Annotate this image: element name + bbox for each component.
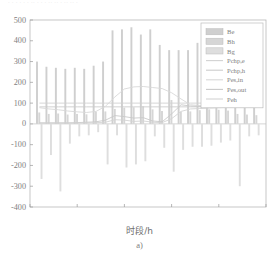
- bar: [197, 43, 199, 124]
- x-axis-title: 时段/h: [0, 224, 279, 237]
- bar: [154, 124, 156, 136]
- bar: [173, 124, 175, 172]
- legend-swatch-Bh: [206, 38, 223, 44]
- x-tick-label: 15: [168, 210, 176, 211]
- bar: [45, 67, 47, 124]
- bar: [208, 109, 210, 124]
- x-tick-label: 25: [262, 210, 270, 211]
- bar: [112, 30, 114, 124]
- chart-canvas: -400-300-200-100010020030040050005101520…: [0, 10, 279, 210]
- bar: [220, 124, 222, 143]
- bar: [229, 124, 231, 141]
- bar: [144, 124, 146, 161]
- bar: [255, 115, 257, 124]
- bar: [239, 124, 241, 186]
- legend-swatch-Be: [206, 29, 223, 35]
- bar: [59, 124, 61, 192]
- bar: [88, 124, 90, 135]
- bar: [149, 29, 151, 124]
- x-tick-label: 0: [28, 210, 32, 211]
- bar: [227, 111, 229, 124]
- figure-caption: a): [0, 240, 279, 250]
- bar: [199, 110, 201, 124]
- bar: [246, 115, 248, 124]
- bar: [102, 62, 104, 124]
- legend-label-Bg: Bg: [227, 48, 235, 55]
- y-tick-label: 500: [14, 16, 26, 25]
- bar: [64, 69, 66, 124]
- bar: [237, 114, 239, 124]
- y-tick-label: 400: [14, 36, 26, 45]
- bar: [201, 124, 203, 147]
- legend: BeBhBgPchp,ePchp,hPes,inPes,outPeh: [201, 23, 263, 108]
- bar: [74, 68, 76, 124]
- x-tick-label: 5: [75, 210, 79, 211]
- bar: [38, 112, 40, 123]
- legend-label-Peh: Peh: [227, 96, 238, 103]
- y-tick-label: 100: [14, 99, 26, 108]
- bar: [130, 27, 132, 124]
- y-tick-label: 0: [22, 119, 26, 128]
- legend-label-Pes,in: Pes,in: [227, 76, 244, 83]
- y-tick-label: -100: [11, 140, 26, 149]
- x-tick-label: 10: [120, 210, 128, 211]
- y-tick-label: 300: [14, 57, 26, 66]
- bar: [116, 124, 118, 135]
- legend-label-Bh: Bh: [227, 38, 235, 45]
- bar: [210, 124, 212, 146]
- legend-label-Pes,out: Pes,out: [227, 86, 246, 93]
- y-tick-label: -400: [11, 203, 26, 210]
- bar: [182, 124, 184, 150]
- bar: [180, 112, 182, 124]
- bar: [41, 124, 43, 179]
- bar: [55, 68, 57, 124]
- bar: [163, 124, 165, 148]
- y-tick-label: -200: [11, 161, 26, 170]
- bar: [126, 124, 128, 168]
- bar: [57, 114, 59, 124]
- bar: [140, 35, 142, 124]
- bar: [192, 124, 194, 147]
- bar: [135, 124, 137, 165]
- bar: [123, 108, 125, 124]
- bar: [258, 124, 260, 135]
- bar: [218, 110, 220, 124]
- bar: [248, 124, 250, 136]
- bar: [170, 100, 172, 124]
- bar: [97, 124, 99, 132]
- bar: [189, 111, 191, 123]
- bar: [93, 66, 95, 124]
- x-tick-label: 20: [215, 210, 223, 211]
- bar: [187, 50, 189, 124]
- legend-label-Pchp,h: Pchp,h: [227, 67, 246, 74]
- bar: [159, 45, 161, 124]
- legend-label-Be: Be: [227, 28, 234, 35]
- plot-area-wrapper: -400-300-200-100010020030040050005101520…: [0, 10, 279, 210]
- bar: [107, 124, 109, 165]
- bar: [36, 62, 38, 124]
- top-text-fragment: · · · · · · ·· · · · ·· ·· · ·· ·· ·: [8, 0, 271, 9]
- bar: [83, 69, 85, 124]
- bar: [121, 29, 123, 124]
- bar: [168, 50, 170, 124]
- figure-panel: · · · · · · ·· · · · ·· ·· · ·· ·· · -40…: [0, 0, 279, 262]
- y-tick-label: 200: [14, 78, 26, 87]
- bar: [78, 124, 80, 136]
- bar: [50, 124, 52, 155]
- y-tick-label: -300: [11, 182, 26, 191]
- legend-label-Pchp,e: Pchp,e: [227, 57, 245, 64]
- legend-swatch-Bg: [206, 48, 223, 54]
- bar: [48, 114, 50, 124]
- bar: [69, 124, 71, 144]
